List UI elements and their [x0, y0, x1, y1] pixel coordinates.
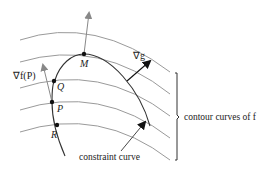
point-P: [50, 100, 54, 104]
point-R: [55, 123, 59, 127]
label-P: P: [56, 103, 63, 114]
point-M: [82, 52, 86, 56]
label-M: M: [79, 58, 89, 69]
contour-curves: [20, 32, 170, 160]
lagrange-diagram: M Q P R ∇f(P) ∇g constraint curve contou…: [0, 0, 278, 173]
label-contour-curves: contour curves of f: [184, 112, 257, 122]
label-Q: Q: [57, 81, 65, 92]
label-R: R: [50, 129, 57, 140]
contour-curve-2: [20, 55, 170, 94]
contour-curve-1: [20, 32, 170, 72]
label-grad-f-P: ∇f(P): [12, 70, 36, 82]
contour-curve-4: [20, 102, 170, 138]
label-grad-g: ∇g: [132, 50, 145, 61]
point-Q: [52, 79, 56, 83]
constraint-pointer-arrow: [121, 122, 145, 151]
contour-curve-3: [20, 80, 170, 116]
contour-bracket: [175, 73, 179, 160]
label-constraint-curve: constraint curve: [79, 152, 140, 162]
grad-f-at-P-arrow: [43, 65, 52, 102]
